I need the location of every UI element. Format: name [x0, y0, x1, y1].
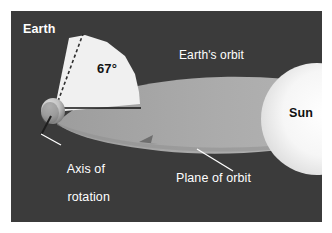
label-earth: Earth — [23, 22, 55, 36]
diagram-figure: Earth 67° Earth's orbit Sun Axis of rota… — [0, 0, 332, 233]
label-sun: Sun — [289, 106, 313, 120]
label-plane-of-orbit: Plane of orbit — [176, 171, 251, 185]
space-panel: Earth 67° Earth's orbit Sun Axis of rota… — [11, 11, 322, 222]
label-tilt-angle: 67° — [97, 62, 117, 77]
label-axis-of-rotation: Axis of rotation — [46, 148, 110, 218]
label-axis-of-rotation-line2: rotation — [67, 190, 110, 204]
label-earths-orbit: Earth's orbit — [179, 49, 244, 62]
earth-terminator-shadow — [41, 102, 59, 124]
label-axis-of-rotation-line1: Axis of — [67, 162, 105, 176]
